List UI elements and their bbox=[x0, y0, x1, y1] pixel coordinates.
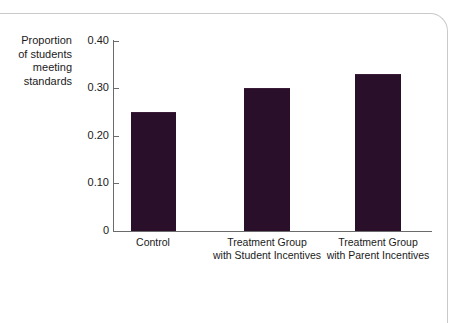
y-tick-mark-030 bbox=[114, 88, 119, 89]
bar-treatment-parent-incentives bbox=[355, 74, 401, 231]
y-tick-mark-010 bbox=[114, 183, 119, 184]
bar-treatment-student-incentives bbox=[244, 88, 290, 231]
x-category-label-parent: Treatment Group with Parent Incentives bbox=[318, 236, 438, 262]
y-tick-label-030: 0.30 bbox=[77, 82, 109, 93]
x-category-label-parent-line-1: Treatment Group bbox=[318, 236, 438, 249]
x-category-label-student-line-1: Treatment Group bbox=[207, 236, 327, 249]
x-category-label-parent-line-2: with Parent Incentives bbox=[318, 249, 438, 262]
y-axis-title-line-2: of students bbox=[16, 48, 72, 62]
y-tick-mark-020 bbox=[114, 136, 119, 137]
x-category-label-student-line-2: with Student Incentives bbox=[207, 249, 327, 262]
y-axis-title-line-3: meeting bbox=[16, 61, 72, 75]
y-axis-title-line-1: Proportion bbox=[16, 34, 72, 48]
y-axis-title: Proportion of students meeting standards bbox=[16, 34, 72, 88]
x-axis-line bbox=[113, 231, 432, 232]
y-tick-label-010: 0.10 bbox=[77, 177, 109, 188]
y-tick-label-020: 0.20 bbox=[77, 130, 109, 141]
x-category-label-control-line-1: Control bbox=[108, 236, 198, 249]
y-tick-label-040: 0.40 bbox=[77, 35, 109, 46]
y-tick-label-000: 0 bbox=[77, 225, 109, 236]
y-axis-title-line-4: standards bbox=[16, 75, 72, 89]
y-tick-mark-040 bbox=[114, 41, 119, 42]
bar-control bbox=[131, 112, 176, 231]
x-category-label-student: Treatment Group with Student Incentives bbox=[207, 236, 327, 262]
x-category-label-control: Control bbox=[108, 236, 198, 249]
